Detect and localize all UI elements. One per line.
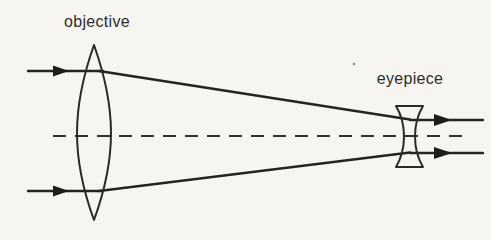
objective-label: objective: [64, 13, 130, 30]
arrowhead-incoming-top-icon: [53, 66, 69, 77]
converging-ray-bottom: [99, 153, 410, 192]
scan-speckle: [353, 63, 356, 66]
arrowhead-incoming-bottom-icon: [53, 186, 69, 197]
arrowhead-exit-bottom-icon: [434, 147, 452, 159]
eyepiece-label: eyepiece: [377, 70, 443, 87]
converging-ray-top: [99, 71, 410, 120]
ray-diagram-canvas: objective eyepiece: [0, 0, 491, 240]
telescope-ray-diagram: objective eyepiece: [0, 0, 491, 240]
arrowhead-exit-top-icon: [434, 114, 452, 126]
